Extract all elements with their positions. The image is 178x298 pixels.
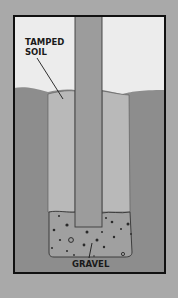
gravel-label: GRAVEL [72, 259, 110, 269]
post-installation-diagram: TAMPED SOIL GRAVEL [0, 0, 178, 298]
post [75, 16, 102, 227]
tamped-soil-label-line2: SOIL [25, 47, 48, 57]
tamped-soil-right [102, 91, 130, 212]
tamped-soil-label-line1: TAMPED [25, 37, 64, 47]
tamped-soil [48, 91, 75, 212]
